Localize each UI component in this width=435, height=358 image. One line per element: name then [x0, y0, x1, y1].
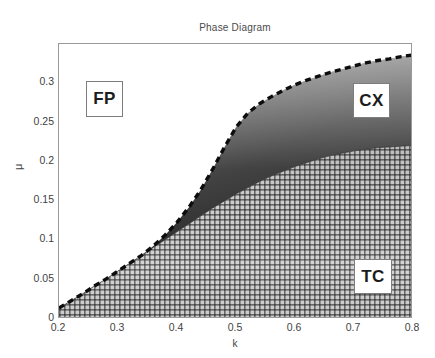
region-label-tc: TC — [354, 259, 392, 294]
x-tick-label: 0.4 — [156, 321, 196, 333]
plot-area: FP CX TC — [58, 43, 412, 318]
y-tick-label: 0.25 — [6, 115, 54, 127]
x-tick-label: 0.5 — [215, 321, 255, 333]
x-tick-label: 0.3 — [97, 321, 137, 333]
y-tick-label: 0.1 — [6, 232, 54, 244]
y-tick-label: 0.3 — [6, 75, 54, 87]
region-label-fp: FP — [86, 81, 123, 117]
y-axis-tick-labels: 0 0.05 0.1 0.15 0.2 0.25 0.3 — [0, 43, 54, 318]
x-tick-label: 0.7 — [333, 321, 373, 333]
y-tick-label: 0.2 — [6, 154, 54, 166]
x-tick-label: 0.2 — [38, 321, 78, 333]
x-axis-label: k — [58, 338, 412, 349]
x-tick-label: 0.6 — [274, 321, 314, 333]
x-axis-tick-labels: 0.2 0.3 0.4 0.5 0.6 0.7 0.8 — [58, 321, 412, 337]
y-tick-label: 0.05 — [6, 272, 54, 284]
region-label-cx: CX — [353, 83, 390, 118]
x-tick-label: 0.8 — [392, 321, 432, 333]
phase-diagram-figure: Phase Diagram μ 0 0.05 0.1 0.15 0.2 0.25… — [0, 0, 435, 358]
y-tick-label: 0.15 — [6, 193, 54, 205]
chart-title: Phase Diagram — [58, 22, 412, 33]
